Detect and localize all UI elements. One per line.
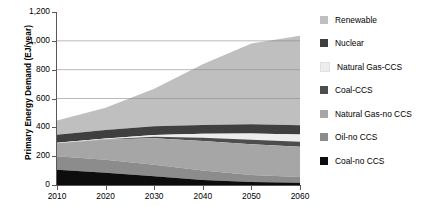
x-tick-mark bbox=[203, 186, 204, 190]
legend-swatch-icon bbox=[320, 62, 330, 72]
legend-item[interactable]: Oil-no CCS bbox=[320, 126, 429, 150]
legend-label: Nuclear bbox=[335, 38, 364, 48]
x-tick-label: 2050 bbox=[229, 191, 273, 201]
x-tick-label: 2010 bbox=[35, 191, 79, 201]
legend-label: Natural Gas-CCS bbox=[337, 62, 402, 72]
legend-label: Oil-no CCS bbox=[335, 132, 377, 142]
legend-label: Coal-CCS bbox=[335, 85, 373, 95]
x-tick-label: 2030 bbox=[132, 191, 176, 201]
stacked-area-series bbox=[57, 12, 300, 185]
x-tick-label: 2040 bbox=[181, 191, 225, 201]
legend: RenewableNuclearNatural Gas-CCSCoal-CCSN… bbox=[320, 8, 429, 173]
y-tick-label: 400 bbox=[2, 122, 50, 130]
y-tick-mark bbox=[52, 127, 57, 128]
legend-swatch-icon bbox=[320, 110, 328, 118]
legend-item[interactable]: Coal-CCS bbox=[320, 79, 429, 103]
legend-swatch-icon bbox=[320, 133, 328, 141]
y-tick-mark bbox=[52, 12, 57, 13]
y-tick-mark bbox=[52, 41, 57, 42]
energy-demand-area-chart: Primary Energy Demand (EJ/year) 02004006… bbox=[0, 0, 429, 207]
y-tick-mark bbox=[52, 70, 57, 71]
legend-item[interactable]: Natural Gas-CCS bbox=[320, 55, 429, 79]
x-tick-mark bbox=[106, 186, 107, 190]
area-band-renewable bbox=[57, 36, 300, 135]
legend-item[interactable]: Renewable bbox=[320, 8, 429, 32]
y-tick-mark bbox=[52, 156, 57, 157]
legend-swatch-icon bbox=[320, 16, 328, 24]
x-tick-mark bbox=[154, 186, 155, 190]
y-tick-label: 1,000 bbox=[2, 36, 50, 44]
x-tick-label: 2020 bbox=[84, 191, 128, 201]
y-axis-tick-labels: 02004006008001,0001,200 bbox=[0, 0, 50, 207]
legend-swatch-icon bbox=[320, 157, 328, 165]
y-tick-label: 1,200 bbox=[2, 7, 50, 15]
y-tick-label: 0 bbox=[2, 180, 50, 188]
legend-label: Natural Gas-no CCS bbox=[335, 109, 412, 119]
x-tick-mark bbox=[251, 186, 252, 190]
x-tick-mark bbox=[300, 186, 301, 190]
legend-item[interactable]: Nuclear bbox=[320, 32, 429, 56]
y-tick-label: 200 bbox=[2, 151, 50, 159]
legend-label: Renewable bbox=[335, 15, 377, 25]
legend-item[interactable]: Natural Gas-no CCS bbox=[320, 102, 429, 126]
plot-area bbox=[57, 12, 300, 185]
legend-swatch-icon bbox=[320, 39, 328, 47]
x-tick-label: 2060 bbox=[278, 191, 322, 201]
y-tick-label: 600 bbox=[2, 94, 50, 102]
y-tick-label: 800 bbox=[2, 65, 50, 73]
legend-item[interactable]: Coal-no CCS bbox=[320, 149, 429, 173]
x-axis-line bbox=[56, 185, 301, 186]
x-tick-mark bbox=[57, 186, 58, 190]
legend-swatch-icon bbox=[320, 86, 328, 94]
legend-label: Coal-no CCS bbox=[335, 156, 384, 166]
y-tick-mark bbox=[52, 99, 57, 100]
